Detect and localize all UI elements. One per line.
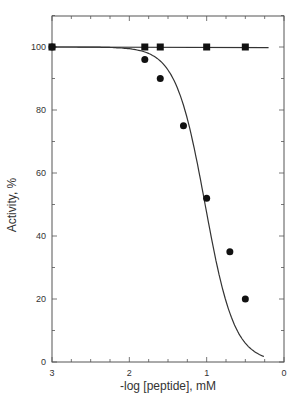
x-tick-label: 0 (281, 368, 286, 378)
y-tick-label: 60 (36, 168, 46, 178)
y-axis-label: Activity, % (5, 177, 19, 232)
y-tick-label: 100 (31, 42, 46, 52)
x-tick-label: 1 (204, 368, 209, 378)
circle-marker (242, 296, 249, 303)
circle-marker (203, 195, 210, 202)
y-tick-label: 0 (41, 357, 46, 367)
chart: 0204060801003210 -log [peptide], mM Acti… (0, 0, 303, 406)
circle-marker (226, 248, 233, 255)
circle-marker (157, 75, 164, 82)
circle-marker (180, 122, 187, 129)
y-tick-label: 20 (36, 294, 46, 304)
square-marker (242, 44, 249, 51)
square-marker (203, 44, 210, 51)
data-series (49, 44, 269, 357)
circles-fit-curve (52, 47, 264, 357)
y-tick-label: 40 (36, 231, 46, 241)
x-axis-label: -log [peptide], mM (120, 379, 216, 393)
x-tick-label: 3 (49, 368, 54, 378)
square-marker (141, 44, 148, 51)
square-marker (157, 44, 164, 51)
x-tick-label: 2 (127, 368, 132, 378)
y-tick-label: 80 (36, 105, 46, 115)
axis-ticks: 0204060801003210 (31, 16, 287, 379)
square-marker (49, 44, 56, 51)
circle-marker (141, 56, 148, 63)
plot-frame (52, 16, 284, 362)
